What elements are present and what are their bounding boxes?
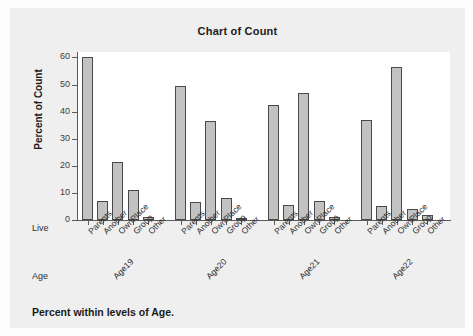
group-label: Age21	[297, 257, 321, 281]
bar	[82, 57, 93, 220]
footnote-text: Percent within levels of Age.	[32, 306, 174, 318]
y-tick-label: 0	[48, 214, 70, 224]
y-tick-label: 60	[48, 51, 70, 61]
bar	[175, 86, 186, 220]
bar	[391, 67, 402, 220]
axis-row-label-live: Live	[32, 223, 49, 233]
bar	[205, 121, 216, 220]
chart-panel: Chart of Count Percent of Count 01020304…	[10, 8, 465, 328]
y-axis-title: Percent of Count	[33, 40, 44, 180]
group-label: Age19	[111, 257, 135, 281]
axis-row-label-age: Age	[32, 271, 48, 281]
page-title: Chart of Count	[10, 25, 465, 37]
x-tick-mark	[367, 221, 368, 225]
x-tick-mark	[181, 221, 182, 225]
chart-screenshot: Chart of Count Percent of Count 01020304…	[0, 0, 473, 336]
y-tick-label: 40	[48, 106, 70, 116]
group-label: Age22	[390, 257, 414, 281]
x-tick-mark	[274, 221, 275, 225]
group-label: Age20	[204, 257, 228, 281]
bar	[361, 120, 372, 220]
bar	[268, 105, 279, 220]
y-tick-label: 10	[48, 187, 70, 197]
bar	[298, 93, 309, 220]
y-tick-label: 20	[48, 160, 70, 170]
plot-area	[78, 52, 450, 220]
x-tick-mark	[88, 221, 89, 225]
y-tick-label: 50	[48, 79, 70, 89]
y-tick-label: 30	[48, 133, 70, 143]
